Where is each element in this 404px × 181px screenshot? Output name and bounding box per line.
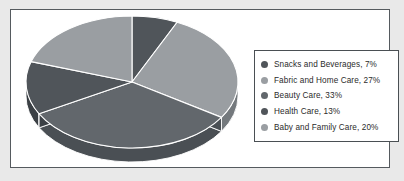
legend-label: Beauty Care, 33% [274, 91, 342, 100]
pie-chart-area: Snacks and Beverages, 7% Fabric and Home… [11, 10, 391, 169]
legend-marker-baby-icon [261, 124, 268, 131]
legend-item[interactable]: Health Care, 13% [261, 104, 391, 120]
legend-label: Fabric and Home Care, 27% [274, 76, 380, 85]
pie-chart-graphic [13, 12, 251, 167]
legend-label: Snacks and Beverages, 7% [274, 60, 377, 69]
legend-marker-beauty-icon [261, 92, 268, 99]
legend-item[interactable]: Baby and Family Care, 20% [261, 119, 391, 135]
legend-marker-fabric-icon [261, 77, 268, 84]
pie-slices [26, 16, 238, 162]
chart-screenshot: Snacks and Beverages, 7% Fabric and Home… [0, 0, 404, 181]
legend-item[interactable]: Snacks and Beverages, 7% [261, 57, 391, 73]
legend-label: Health Care, 13% [274, 107, 340, 116]
legend-marker-health-icon [261, 108, 268, 115]
legend-item[interactable]: Fabric and Home Care, 27% [261, 73, 391, 89]
chart-frame: Snacks and Beverages, 7% Fabric and Home… [10, 9, 390, 168]
legend-label: Baby and Family Care, 20% [274, 123, 378, 132]
legend-item[interactable]: Beauty Care, 33% [261, 88, 391, 104]
legend-marker-snacks-icon [261, 61, 268, 68]
chart-legend: Snacks and Beverages, 7% Fabric and Home… [254, 50, 399, 142]
